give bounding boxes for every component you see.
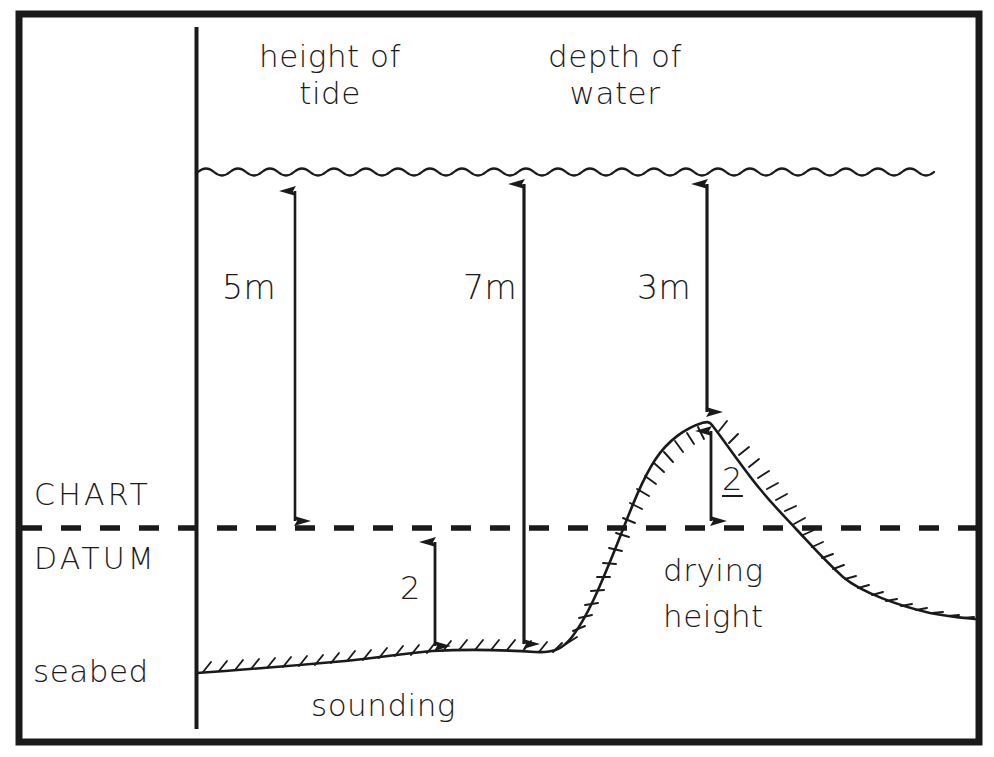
chart-datum-label-line2: DATUM	[34, 541, 157, 576]
seabed-label: seabed	[33, 653, 149, 690]
sounding-label: sounding	[311, 687, 456, 724]
chart-datum-label-line1: CHART	[34, 477, 151, 512]
sea-surface-line	[198, 169, 934, 176]
diagram-canvas: height of tide depth of water 5m 7m 3m C…	[0, 0, 994, 757]
chart-datum-diagram	[0, 0, 994, 757]
drying-height-value: 2	[722, 461, 743, 499]
drying-height-label-line2: height	[663, 598, 764, 635]
depth-of-water-title: depth of water	[510, 38, 720, 111]
height-of-tide-title: height of tide	[225, 38, 435, 111]
seabed-profile	[197, 422, 975, 673]
drying-height-label-line1: drying	[663, 552, 764, 589]
depth-of-water-value: 7m	[463, 269, 517, 308]
height-of-tide-value: 5m	[222, 269, 276, 308]
sounding-value: 2	[400, 570, 421, 608]
clearance-value: 3m	[637, 269, 691, 308]
diagram-border	[19, 14, 979, 742]
